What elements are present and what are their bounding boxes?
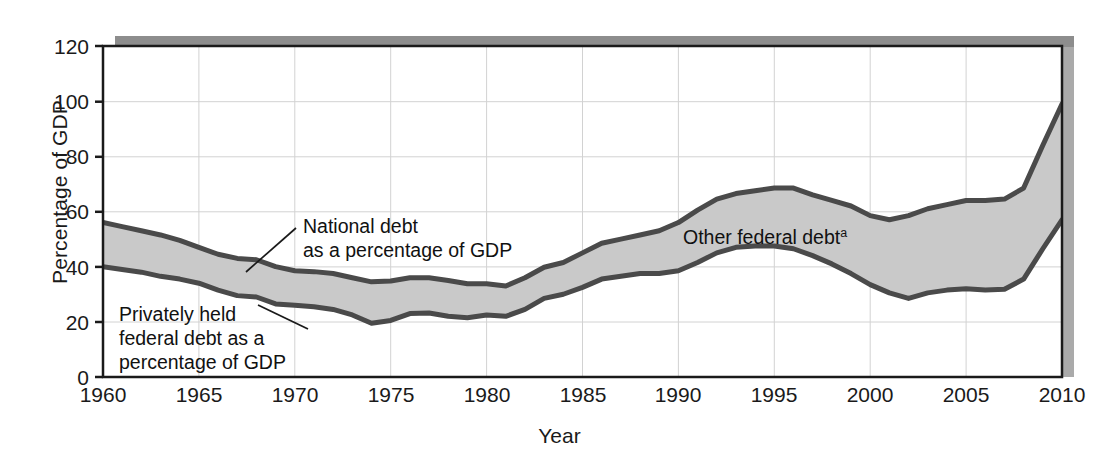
plot-canvas [0,0,1119,461]
annotation-national-debt: National debt as a percentage of GDP [303,215,512,263]
annotation-privately-held-debt: Privately held federal debt as a percent… [119,303,286,374]
annotation-national-debt-line1: National debt [303,215,512,239]
annotation-other-federal-debt-text: Other federal debt [683,226,840,248]
annotation-other-federal-debt: Other federal debta [683,226,847,250]
chart-figure: Percentage of GDP Year 120 100 80 60 40 … [0,0,1119,461]
annotation-privately-held-line1: Privately held [119,303,286,327]
footnote-marker-a: a [840,226,847,240]
annotation-national-debt-line2: as a percentage of GDP [303,239,512,263]
annotation-privately-held-line2: federal debt as a [119,327,286,351]
annotation-privately-held-line3: percentage of GDP [119,351,286,375]
plot-shadow-right [1062,36,1074,377]
